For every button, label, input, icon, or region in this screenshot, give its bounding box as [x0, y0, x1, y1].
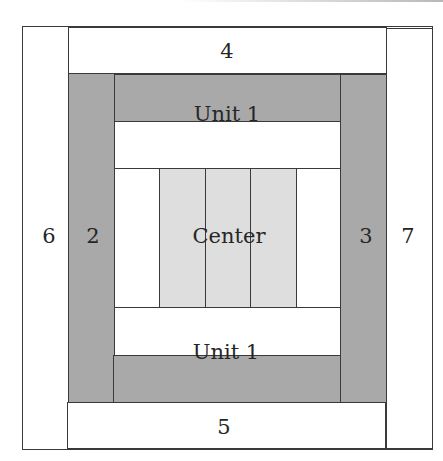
label-strip-7: 7 [401, 226, 414, 247]
label-strip-3: 3 [359, 226, 372, 247]
label-strip-2: 2 [86, 226, 99, 247]
label-strip-4: 4 [220, 41, 233, 62]
label-strip-6: 6 [42, 226, 55, 247]
label-center: Center [193, 226, 266, 247]
label-unit-1-bottom: Unit 1 [193, 342, 259, 363]
scan-edge-line [180, 0, 443, 2]
label-strip-5: 5 [217, 417, 230, 438]
unit-1-top-white-strip [114, 121, 341, 169]
center-left-white [114, 168, 160, 308]
label-unit-1-top: Unit 1 [194, 104, 260, 125]
center-right-white [296, 168, 341, 308]
